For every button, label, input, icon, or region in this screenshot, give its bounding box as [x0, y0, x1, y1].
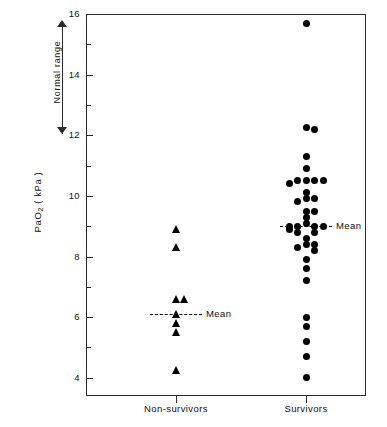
data-point-triangle	[176, 247, 180, 251]
y-tick-major	[86, 196, 93, 197]
x-tick-non-survivors	[176, 396, 177, 403]
y-tick-minor	[86, 347, 91, 348]
data-point-triangle	[176, 323, 180, 327]
y-tick-minor	[86, 105, 91, 106]
data-point-circle	[306, 260, 310, 264]
data-point-circle	[289, 184, 293, 188]
circle-marker-icon	[303, 195, 310, 202]
y-axis-title: PaO2 ( kPa )	[32, 142, 44, 262]
y-tick-label: 12	[54, 130, 80, 140]
y-tick-label: 10	[54, 191, 80, 201]
y-tick-major	[86, 257, 93, 258]
circle-marker-icon	[303, 165, 310, 172]
triangle-marker-icon	[172, 225, 180, 233]
circle-marker-icon	[303, 323, 310, 330]
circle-marker-icon	[303, 124, 310, 131]
data-point-circle	[315, 199, 319, 203]
x-axis-label-non-survivors: Non-survivors	[111, 404, 241, 414]
data-point-circle	[298, 247, 302, 251]
data-point-circle	[315, 211, 319, 215]
data-point-circle	[306, 169, 310, 173]
x-tick-survivors	[306, 396, 307, 403]
data-point-circle	[289, 229, 293, 233]
circle-marker-icon	[286, 180, 293, 187]
data-point-circle	[306, 378, 310, 382]
y-tick-minor	[86, 44, 91, 45]
data-point-circle	[306, 128, 310, 132]
circle-marker-icon	[303, 153, 310, 160]
figure-caption	[6, 419, 386, 427]
circle-marker-icon	[311, 126, 318, 133]
circle-marker-icon	[303, 338, 310, 345]
data-point-circle	[315, 232, 319, 236]
circle-marker-icon	[311, 247, 318, 254]
circle-marker-icon	[311, 208, 318, 215]
data-point-triangle	[176, 370, 180, 374]
circle-marker-icon	[311, 177, 318, 184]
circle-marker-icon	[303, 314, 310, 321]
circle-marker-icon	[303, 353, 310, 360]
triangle-marker-icon	[172, 295, 180, 303]
y-tick-minor	[86, 166, 91, 167]
figure-container: PaO2 ( kPa ) Normal range 46810121416 Me…	[0, 0, 387, 427]
triangle-marker-icon	[172, 319, 180, 327]
triangle-marker-icon	[172, 366, 180, 374]
data-point-circle	[306, 23, 310, 27]
data-point-triangle	[176, 332, 180, 336]
data-point-circle	[298, 232, 302, 236]
circle-marker-icon	[303, 265, 310, 272]
data-point-circle	[315, 129, 319, 133]
y-tick-label: 4	[54, 373, 80, 383]
circle-marker-icon	[303, 177, 310, 184]
data-point-circle	[306, 269, 310, 273]
data-point-circle	[306, 156, 310, 160]
y-tick-minor	[86, 226, 91, 227]
y-tick-major	[86, 75, 93, 76]
data-point-circle	[306, 341, 310, 345]
circle-marker-icon	[294, 177, 301, 184]
data-point-circle	[306, 326, 310, 330]
mean-line	[150, 314, 202, 315]
data-point-circle	[315, 250, 319, 254]
y-tick-label: 14	[54, 70, 80, 80]
triangle-marker-icon	[180, 295, 188, 303]
y-axis-title-subscript: 2	[37, 207, 44, 212]
data-point-circle	[315, 181, 319, 185]
triangle-marker-icon	[172, 328, 180, 336]
y-tick-major	[86, 14, 93, 15]
circle-marker-icon	[320, 177, 327, 184]
data-point-triangle	[176, 299, 180, 303]
circle-marker-icon	[311, 195, 318, 202]
data-point-circle	[306, 317, 310, 321]
y-tick-major	[86, 378, 93, 379]
y-tick-label: 6	[54, 312, 80, 322]
circle-marker-icon	[294, 229, 301, 236]
circle-marker-icon	[294, 198, 301, 205]
y-tick-major	[86, 317, 93, 318]
circle-marker-icon	[311, 229, 318, 236]
triangle-marker-icon	[172, 243, 180, 251]
data-point-circle	[306, 281, 310, 285]
y-axis-title-unit: ( kPa )	[32, 172, 43, 204]
circle-marker-icon	[303, 241, 310, 248]
y-tick-minor	[86, 287, 91, 288]
y-axis-title-main: PaO	[32, 212, 43, 233]
circle-marker-icon	[303, 20, 310, 27]
data-point-triangle	[176, 229, 180, 233]
circle-marker-icon	[303, 374, 310, 381]
mean-line	[280, 226, 332, 227]
data-point-triangle	[185, 299, 189, 303]
circle-marker-icon	[294, 244, 301, 251]
x-axis-label-survivors: Survivors	[241, 404, 371, 414]
plot-frame	[86, 14, 366, 396]
data-point-circle	[306, 357, 310, 361]
data-point-circle	[323, 181, 327, 185]
data-point-circle	[306, 181, 310, 185]
y-tick-label: 16	[54, 9, 80, 19]
data-point-circle	[298, 202, 302, 206]
circle-marker-icon	[303, 277, 310, 284]
mean-label: Mean	[206, 309, 231, 319]
y-tick-major	[86, 135, 93, 136]
data-point-circle	[306, 244, 310, 248]
data-point-circle	[298, 181, 302, 185]
